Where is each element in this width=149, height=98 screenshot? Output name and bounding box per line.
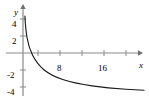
y-tick-label-neg2: -2: [7, 70, 15, 80]
chart-figure: y x 4 2 -2 -4 8 16: [0, 0, 149, 98]
x-tick-label-16: 16: [98, 63, 107, 73]
x-axis-label: x: [139, 60, 143, 70]
plot-area: [0, 0, 149, 98]
y-axis-arrow-icon: [20, 4, 25, 9]
y-tick-label-neg4: -4: [7, 87, 15, 97]
y-tick-label-2: 2: [12, 36, 17, 46]
x-tick-label-8: 8: [57, 63, 62, 73]
y-tick-label-4: 4: [12, 19, 17, 29]
